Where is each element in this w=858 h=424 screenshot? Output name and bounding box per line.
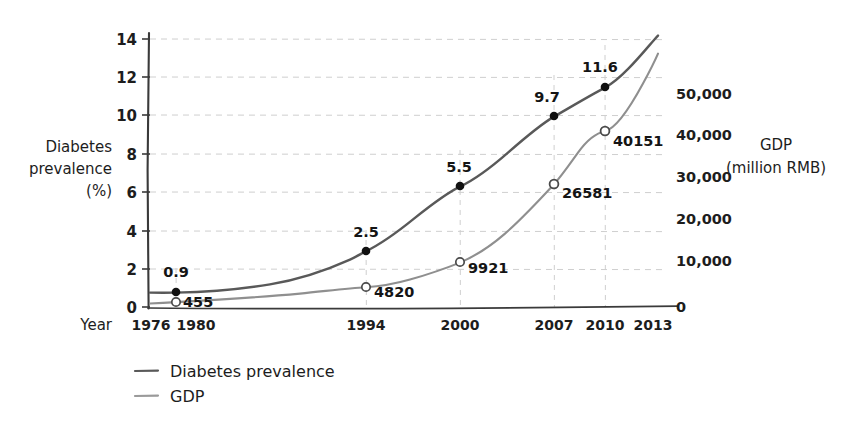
prevalence-label-2000: 5.5	[446, 159, 472, 175]
gdp-label-2010: 40151	[613, 133, 663, 149]
x-tick-1980: 1980	[177, 317, 216, 333]
gdp-marker-2007	[550, 180, 559, 189]
y-right-tick-30000: 30,000	[676, 169, 732, 185]
gdp-label-1980: 455	[183, 294, 213, 310]
legend-label-gdp: GDP	[170, 387, 205, 406]
y-left-tick-14: 14	[116, 31, 137, 49]
y-right-tick-50000: 50,000	[676, 86, 732, 102]
prevalence-marker-2007	[550, 112, 559, 121]
prevalence-marker-2010	[601, 83, 610, 92]
x-tick-2000: 2000	[441, 317, 480, 333]
y-left-tick-8: 8	[127, 146, 137, 164]
gdp-marker-2000	[456, 258, 464, 266]
y-right-tick-10000: 10,000	[676, 253, 732, 269]
prevalence-label-2010: 11.6	[582, 59, 618, 75]
x-axis-caption: Year	[79, 316, 113, 334]
x-tick-2013: 2013	[634, 317, 673, 333]
y-left-tick-10: 10	[116, 107, 137, 125]
x-tick-1976: 1976	[132, 317, 171, 333]
prevalence-label-1994: 2.5	[353, 224, 379, 240]
y-right-title-line2: (million RMB)	[726, 159, 826, 177]
y-left-title-line1: Diabetes	[45, 138, 112, 156]
y-right-tick-20000: 20,000	[676, 211, 732, 227]
prevalence-marker-1980	[172, 288, 181, 297]
chart-figure: 14 12 10 8 6 4 2 0 Diabetes prevalence (…	[0, 0, 858, 424]
chart-canvas: 14 12 10 8 6 4 2 0 Diabetes prevalence (…	[0, 0, 858, 424]
gdp-label-2007: 26581	[562, 185, 612, 201]
prevalence-marker-1994	[362, 247, 371, 256]
y-right-tick-40000: 40,000	[676, 127, 732, 143]
gdp-marker-1980	[172, 298, 180, 306]
x-tick-2007: 2007	[535, 317, 574, 333]
gdp-marker-1994	[362, 283, 370, 291]
y-left-tick-4: 4	[127, 223, 137, 241]
y-right-tick-0: 0	[676, 299, 686, 315]
prevalence-label-2007: 9.7	[534, 89, 560, 105]
y-left-tick-0: 0	[127, 299, 137, 317]
y-left-tick-12: 12	[116, 69, 137, 87]
y-left-title-line2: prevalence	[29, 160, 112, 178]
gdp-marker-2010	[601, 127, 610, 136]
gdp-label-1994: 4820	[374, 284, 414, 300]
y-left-title-line3: (%)	[86, 182, 112, 200]
y-right-title-line1: GDP	[760, 136, 792, 154]
legend-label-prevalence: Diabetes prevalence	[170, 362, 335, 381]
y-left-tick-6: 6	[127, 184, 137, 202]
gdp-label-2000: 9921	[468, 260, 508, 276]
x-tick-2010: 2010	[586, 317, 625, 333]
prevalence-label-1980: 0.9	[163, 264, 189, 280]
prevalence-marker-2000	[456, 182, 465, 191]
y-left-tick-2: 2	[127, 261, 137, 279]
x-tick-1994: 1994	[347, 317, 386, 333]
